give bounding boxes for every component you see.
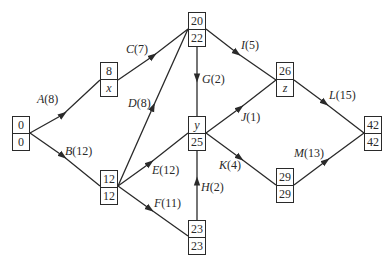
earliest-time: 42 xyxy=(365,117,381,134)
node-29-29: 29 29 xyxy=(276,168,294,203)
latest-time: 22 xyxy=(189,30,205,46)
node-23-23: 23 23 xyxy=(188,220,206,255)
label-h: H(2) xyxy=(201,180,224,195)
node-26-z: 26 z xyxy=(276,62,294,97)
latest-time: 25 xyxy=(189,134,205,150)
label-e: E(12) xyxy=(152,163,179,178)
label-k: K(4) xyxy=(219,158,241,173)
earliest-time: 23 xyxy=(189,221,205,238)
label-c: C(7) xyxy=(126,42,148,57)
node-y-25: y 25 xyxy=(188,116,206,151)
node-start: 0 0 xyxy=(12,116,30,151)
earliest-time: 8 xyxy=(101,63,117,80)
label-m: M(13) xyxy=(294,146,324,161)
node-20-22: 20 22 xyxy=(188,12,206,47)
earliest-time: 12 xyxy=(101,171,117,188)
activity-network-diagram: 0 0 8 x 20 22 12 12 y 25 23 23 26 z 29 2… xyxy=(0,0,390,264)
latest-time: 0 xyxy=(13,134,29,150)
label-i: I(5) xyxy=(241,38,259,53)
label-a: A(8) xyxy=(37,92,58,107)
edge-f xyxy=(118,186,188,236)
latest-time: z xyxy=(277,80,293,96)
node-end: 42 42 xyxy=(364,116,382,151)
label-l: L(15) xyxy=(329,88,356,103)
edge-b xyxy=(30,133,100,186)
earliest-time: y xyxy=(189,117,205,134)
label-j: J(1) xyxy=(241,110,260,125)
latest-time: x xyxy=(101,80,117,96)
latest-time: 23 xyxy=(189,238,205,254)
earliest-time: 29 xyxy=(277,169,293,186)
label-g: G(2) xyxy=(202,72,225,87)
label-f: F(11) xyxy=(154,196,181,211)
latest-time: 12 xyxy=(101,188,117,204)
earliest-time: 0 xyxy=(13,117,29,134)
edge-e xyxy=(118,133,188,186)
earliest-time: 26 xyxy=(277,63,293,80)
node-after-a: 8 x xyxy=(100,62,118,97)
node-after-b: 12 12 xyxy=(100,170,118,205)
edge-j xyxy=(206,80,276,133)
latest-time: 42 xyxy=(365,134,381,150)
latest-time: 29 xyxy=(277,186,293,202)
label-b: B(12) xyxy=(65,144,92,159)
earliest-time: 20 xyxy=(189,13,205,30)
label-d: D(8) xyxy=(128,96,151,111)
